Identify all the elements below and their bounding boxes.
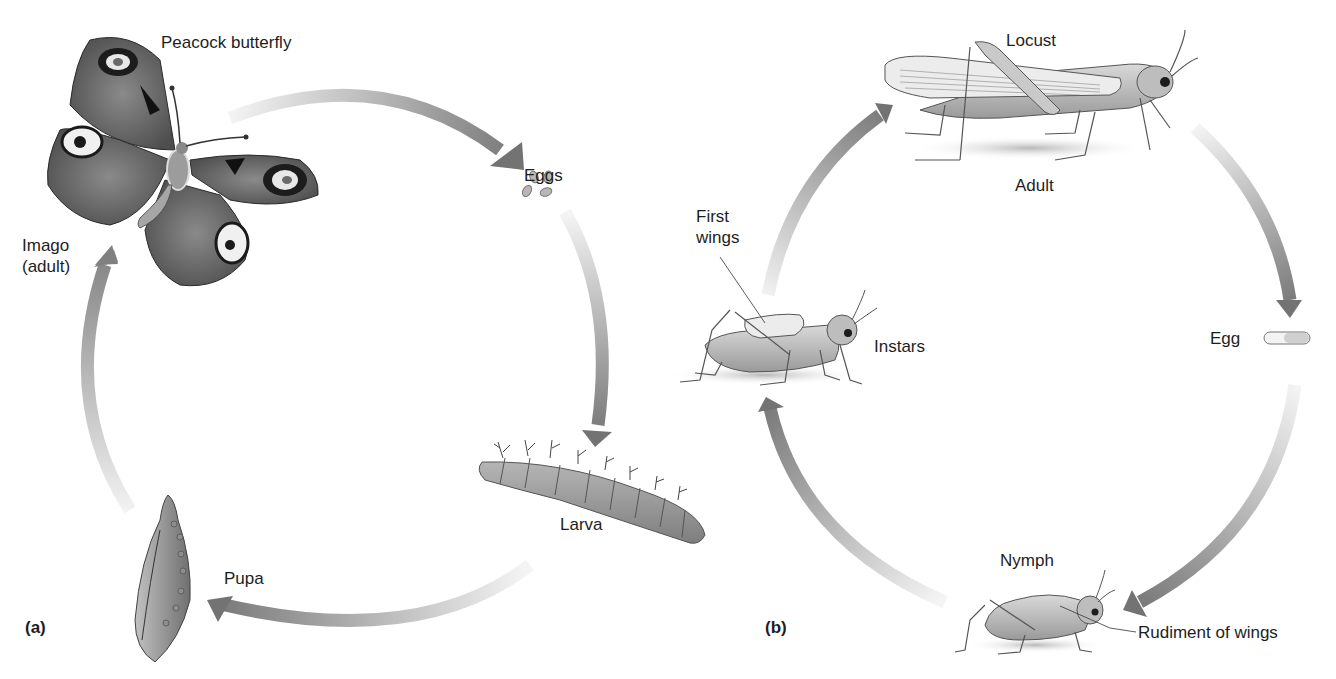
locust-egg-illustration [1264, 332, 1310, 344]
label-rudiment-of-wings: Rudiment of wings [1138, 622, 1278, 644]
label-nymph: Nymph [1000, 550, 1054, 572]
panel-label-b: (b) [765, 618, 787, 638]
arrow-adult-to-egg [1195, 128, 1302, 318]
label-imago-line2: (adult) [22, 256, 70, 278]
arrow-pupa-to-imago [87, 245, 130, 510]
pupa-chrysalis-illustration [135, 495, 190, 662]
arrow-egg-to-nymph [1123, 385, 1295, 617]
arrow-nymph-to-instars [758, 397, 945, 602]
instar-locust-illustration [665, 290, 877, 385]
nymph-locust-illustration [955, 570, 1115, 654]
peacock-butterfly-illustration [48, 38, 319, 286]
label-egg: Egg [1210, 328, 1240, 350]
label-adult: Adult [1015, 175, 1054, 197]
label-first-wings-line1: First [696, 206, 729, 228]
panel-label-a: (a) [25, 618, 46, 638]
label-first-wings-line2: wings [696, 227, 739, 249]
label-larva: Larva [560, 514, 603, 536]
label-peacock-butterfly: Peacock butterfly [161, 32, 291, 54]
diagram-canvas [0, 0, 1336, 679]
arrow-eggs-to-larva [565, 212, 612, 447]
life-cycle-diagram: Peacock butterfly Eggs Imago (adult) Lar… [0, 0, 1336, 679]
label-eggs: Eggs [524, 165, 563, 187]
label-imago-line1: Imago [22, 235, 69, 257]
label-pupa: Pupa [224, 568, 264, 590]
label-locust: Locust [1006, 30, 1056, 52]
label-instars: Instars [874, 336, 925, 358]
arrow-instars-to-adult [768, 103, 893, 295]
